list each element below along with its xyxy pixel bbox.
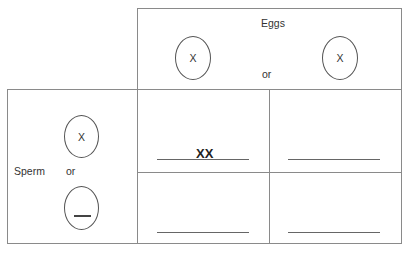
egg-allele-2-text: X: [336, 52, 343, 64]
egg-allele-1: X: [175, 36, 211, 80]
cell-1-1-blank[interactable]: [288, 232, 380, 233]
sperm-allele-1-text: X: [78, 131, 85, 143]
sperm-allele-1: X: [64, 115, 99, 158]
grid-divider-vertical: [269, 89, 270, 244]
border-left: [7, 89, 8, 244]
sperm-label: Sperm: [14, 165, 45, 177]
border-bottom: [7, 243, 402, 244]
grid-divider-horizontal: [137, 172, 402, 173]
egg-allele-1-text: X: [189, 52, 196, 64]
cell-0-0-blank[interactable]: [157, 159, 249, 160]
eggs-label: Eggs: [261, 17, 285, 29]
cell-0-1-blank[interactable]: [288, 159, 380, 160]
border-right: [401, 8, 402, 244]
sperm-allele-2: [64, 186, 99, 230]
egg-allele-2: X: [322, 36, 358, 80]
border-top: [137, 8, 402, 9]
eggs-or-label: or: [262, 68, 271, 80]
sperm-or-label: or: [66, 165, 75, 177]
cell-1-0-blank[interactable]: [157, 232, 249, 233]
sperm-allele-2-blank[interactable]: [74, 215, 91, 217]
border-header-left: [137, 8, 138, 244]
border-header-bottom: [7, 89, 402, 90]
